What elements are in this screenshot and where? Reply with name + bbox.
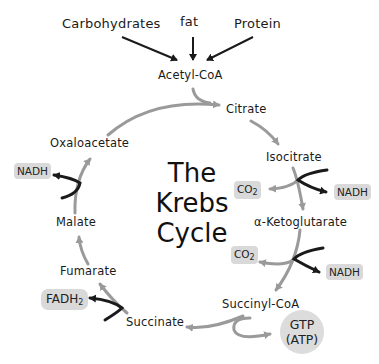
input-arrows bbox=[122, 37, 253, 60]
node-malate: Malate bbox=[56, 215, 96, 229]
node-alpha-ketoglutarate: α-Ketoglutarate bbox=[254, 215, 347, 229]
node-fumarate: Fumarate bbox=[60, 264, 116, 278]
node-citrate: Citrate bbox=[226, 102, 267, 116]
chip-succinate-fadh2: FADH2 bbox=[41, 289, 88, 310]
node-succinate: Succinate bbox=[126, 315, 184, 329]
chip-isocitrate-nadh: NADH bbox=[334, 184, 371, 200]
chip-ketoglutarate-co2: CO2 bbox=[231, 246, 258, 264]
chip-malate-nadh: NADH bbox=[14, 163, 51, 179]
node-succinyl-coa: Succinyl-CoA bbox=[222, 297, 299, 311]
input-protein: Protein bbox=[234, 16, 281, 31]
node-oxaloacetate: Oxaloacetate bbox=[50, 136, 129, 150]
chip-gtp-atp: GTP (ATP) bbox=[280, 310, 324, 354]
node-isocitrate: Isocitrate bbox=[266, 150, 322, 164]
input-carbohydrates: Carbohydrates bbox=[62, 16, 161, 31]
input-fat: fat bbox=[180, 14, 198, 29]
diagram-title: The Krebs Cycle bbox=[152, 158, 232, 248]
chip-isocitrate-co2: CO2 bbox=[234, 181, 261, 199]
entry-acetyl-coa: Acetyl-CoA bbox=[158, 68, 223, 82]
chip-ketoglutarate-nadh: NADH bbox=[326, 264, 363, 280]
